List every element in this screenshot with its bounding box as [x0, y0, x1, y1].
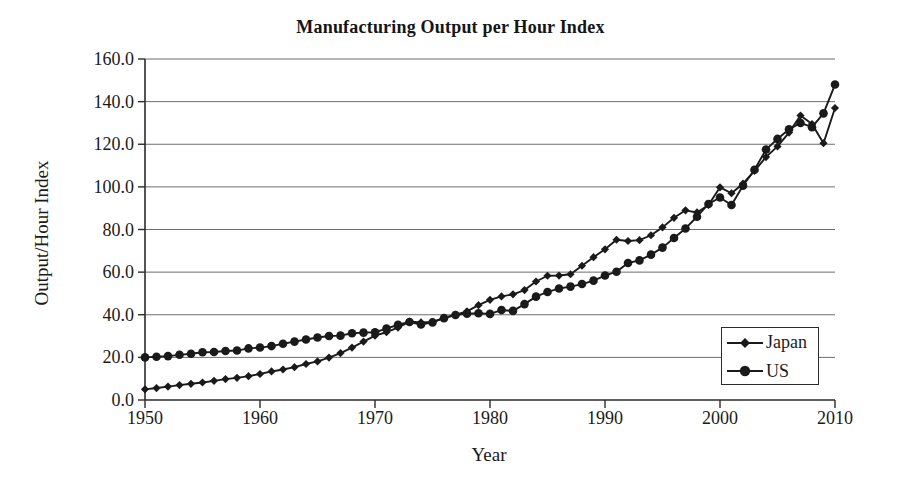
x-tick-label: 1960 — [215, 409, 305, 427]
x-tick-label: 1970 — [330, 409, 420, 427]
legend-marker-circle-icon — [727, 357, 763, 386]
x-tick-label: 1990 — [560, 409, 650, 427]
chart-figure: Manufacturing Output per Hour Index Outp… — [0, 0, 901, 485]
legend-item-us[interactable]: US — [722, 357, 820, 386]
x-axis-ticks: 1950196019701980199020002010 — [0, 409, 901, 435]
x-tick-label: 2010 — [790, 409, 880, 427]
legend-label-japan: Japan — [766, 332, 807, 352]
legend-item-japan[interactable]: Japan — [722, 328, 820, 357]
legend-label-us: US — [766, 361, 789, 381]
x-tick-label: 1980 — [445, 409, 535, 427]
chart-legend[interactable]: Japan US — [721, 327, 819, 385]
x-tick-label: 2000 — [675, 409, 765, 427]
x-tick-label: 1950 — [100, 409, 190, 427]
legend-marker-diamond-icon — [727, 328, 763, 357]
x-axis-label: Year — [142, 444, 836, 466]
